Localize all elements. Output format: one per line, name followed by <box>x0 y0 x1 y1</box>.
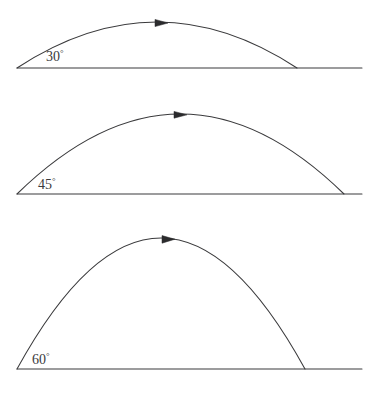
degree-symbol-45: ° <box>52 176 56 186</box>
trajectory-panel-30: 30° <box>17 19 362 68</box>
direction-arrow-icon-45 <box>174 111 187 118</box>
angle-label-45: 45° <box>38 176 56 192</box>
trajectories-canvas: 30° 45° 60° <box>0 0 382 404</box>
angle-label-60: 60° <box>32 351 50 367</box>
angle-label-30-value: 30 <box>46 49 60 64</box>
trajectory-panel-45: 45° <box>17 111 362 194</box>
trajectory-arc-60 <box>17 238 305 369</box>
direction-arrow-icon-30 <box>155 19 168 26</box>
degree-symbol-60: ° <box>46 351 50 361</box>
projectile-figure: 30° 45° 60° <box>0 0 382 404</box>
angle-label-60-value: 60 <box>32 352 46 367</box>
angle-label-30: 30° <box>46 48 64 64</box>
direction-arrow-icon-60 <box>162 236 175 244</box>
angle-label-45-value: 45 <box>38 177 52 192</box>
degree-symbol-30: ° <box>60 48 64 58</box>
trajectory-arc-45 <box>17 114 344 194</box>
trajectory-panel-60: 60° <box>17 236 362 369</box>
